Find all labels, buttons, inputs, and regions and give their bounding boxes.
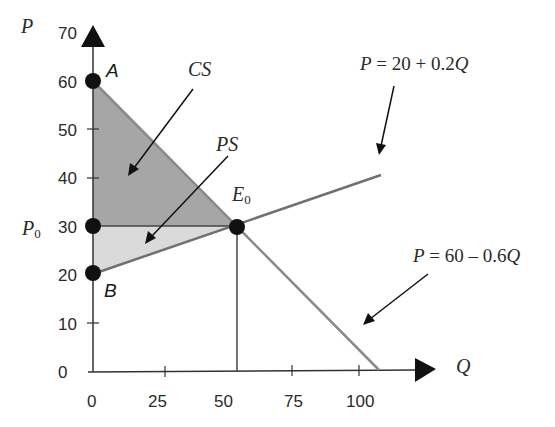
point-p0: [85, 218, 101, 234]
label-e0: E0: [231, 183, 251, 207]
supply-arrow-head-icon: [376, 143, 386, 155]
label-ps: PS: [215, 133, 238, 155]
y-tick-20: 20: [58, 266, 77, 285]
x-tick-100: 100: [346, 392, 374, 411]
label-b: B: [104, 280, 117, 301]
point-a: [85, 73, 101, 89]
demand-equation-label: P = 60 – 0.6Q: [412, 245, 521, 266]
y-axis-arrow-icon: [81, 25, 105, 47]
demand-arrow: [370, 274, 428, 319]
point-e0: [229, 219, 245, 235]
supply-equation-label: P = 20 + 0.2Q: [359, 53, 469, 74]
point-b: [85, 265, 101, 281]
x-axis-arrow-icon: [415, 358, 436, 382]
y-tick-10: 10: [58, 315, 77, 334]
x-tick-0: 0: [87, 392, 96, 411]
label-a: A: [105, 60, 119, 81]
demand-arrow-head-icon: [363, 313, 375, 325]
y-tick-0: 0: [58, 363, 67, 382]
x-tick-50: 50: [214, 392, 233, 411]
x-tick-25: 25: [148, 392, 167, 411]
surplus-chart: 0 10 20 30 40 50 60 70 0 25 50 75 100 P …: [0, 0, 555, 427]
x-tick-75: 75: [284, 392, 303, 411]
label-cs: CS: [188, 58, 211, 80]
x-axis: [88, 370, 418, 372]
y-axis-label: P: [20, 15, 33, 37]
y-tick-30: 30: [58, 218, 77, 237]
y-tick-70: 70: [58, 24, 77, 43]
y-tick-40: 40: [58, 169, 77, 188]
supply-arrow: [381, 86, 394, 146]
x-axis-label: Q: [456, 355, 471, 377]
y-tick-50: 50: [58, 121, 77, 140]
y-tick-60: 60: [58, 73, 77, 92]
label-p0: P0: [21, 217, 41, 241]
